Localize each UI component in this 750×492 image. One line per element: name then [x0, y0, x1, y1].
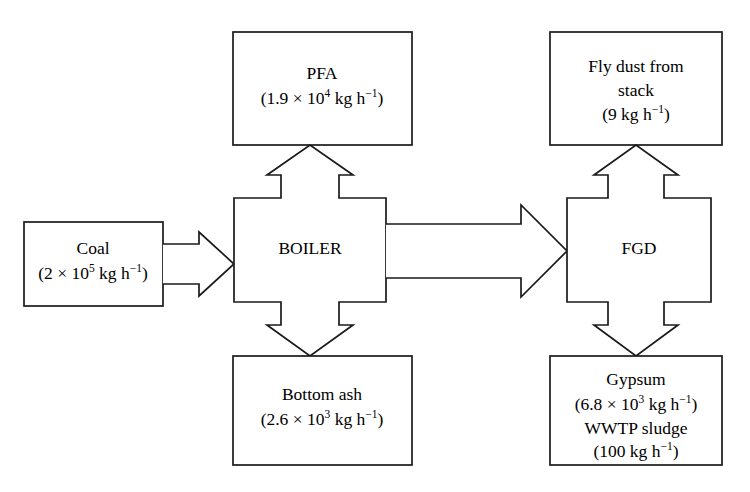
arrow-coal-to-boiler	[163, 232, 234, 296]
boiler-label: BOILER	[278, 238, 342, 258]
flow-diagram-canvas: PFA (1.9 × 104 kg h−1) Fly dust from sta…	[0, 0, 750, 492]
pfa-label: PFA	[307, 63, 338, 83]
wwtp-sludge-label: WWTP sludge	[585, 418, 688, 438]
gypsum-label: Gypsum	[606, 369, 666, 389]
fly-dust-label-line2: stack	[618, 80, 654, 100]
fgd-label: FGD	[621, 238, 656, 258]
pfa-value: (1.9 × 104 kg h−1)	[261, 87, 384, 108]
bottom-ash-label: Bottom ash	[282, 384, 362, 404]
fly-dust-label-line1: Fly dust from	[588, 56, 684, 76]
bottom-ash-value: (2.6 × 103 kg h−1)	[261, 408, 384, 429]
coal-label: Coal	[76, 238, 109, 258]
gypsum-value: (6.8 × 103 kg h−1)	[575, 393, 698, 414]
process-flow-diagram: PFA (1.9 × 104 kg h−1) Fly dust from sta…	[0, 0, 750, 492]
arrow-boiler-to-fgd	[386, 205, 567, 297]
